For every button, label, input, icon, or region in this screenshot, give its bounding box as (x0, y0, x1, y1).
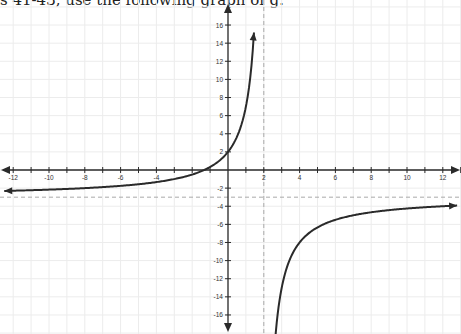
y-axis-down-arrow (224, 323, 232, 332)
x-tick-label: 8 (369, 174, 373, 181)
x-tick-label: -4 (154, 174, 160, 181)
y-tick-label: 10 (216, 76, 224, 83)
y-tick-label: 8 (219, 94, 223, 101)
y-tick-label: -10 (214, 257, 224, 264)
curve-left-branch (4, 32, 254, 190)
x-tick-label: 12 (439, 174, 447, 181)
x-tick-label: -8 (82, 174, 88, 181)
x-axis-right-arrow (451, 166, 460, 174)
y-tick-label: -14 (214, 293, 224, 300)
x-tick-label: -6 (118, 174, 124, 181)
y-tick-label: -8 (217, 239, 223, 246)
y-tick-label: -12 (214, 275, 224, 282)
y-tick-label: -4 (217, 203, 223, 210)
y-tick-label: 16 (216, 22, 224, 29)
x-tick-label: 6 (334, 174, 338, 181)
y-tick-label: 2 (219, 148, 223, 155)
curve-right-arrow (449, 202, 457, 209)
x-tick-label: 10 (403, 174, 411, 181)
x-tick-label: 4 (298, 174, 302, 181)
x-tick-label: -12 (8, 174, 18, 181)
chart: -12-10-8-6-424681012161412108642-2-4-6-8… (0, 0, 461, 334)
y-tick-label: -6 (217, 221, 223, 228)
y-tick-label: 6 (219, 112, 223, 119)
asymptotes (0, 0, 461, 334)
y-tick-label: -16 (214, 311, 224, 318)
y-tick-label: 14 (216, 40, 224, 47)
grid (0, 0, 461, 334)
x-axis-left-arrow (1, 166, 10, 174)
y-tick-label: 12 (216, 58, 224, 65)
y-tick-label: 4 (219, 130, 223, 137)
y-axis-up-arrow (224, 4, 232, 13)
x-tick-label: -10 (44, 174, 54, 181)
axes (1, 4, 460, 332)
x-tick-label: 2 (262, 174, 266, 181)
y-tick-label: -2 (217, 185, 223, 192)
